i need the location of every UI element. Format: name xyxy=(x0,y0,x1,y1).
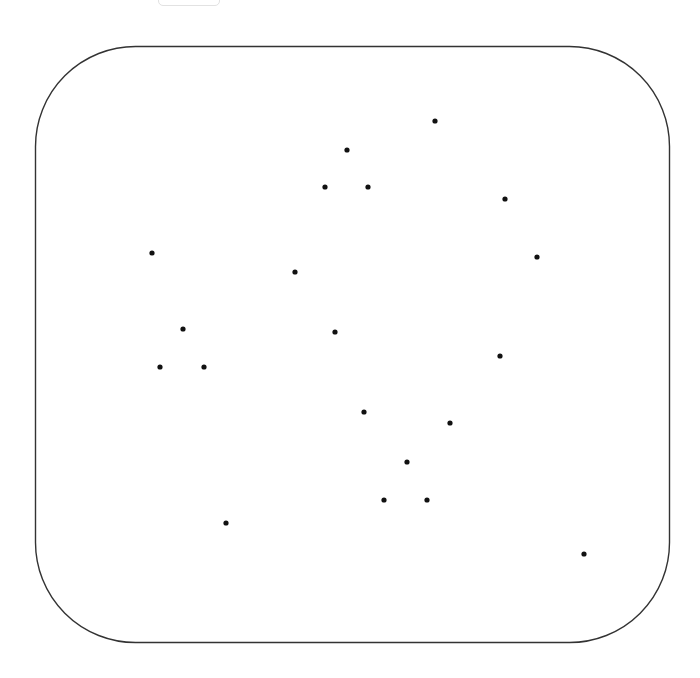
dot-4 xyxy=(365,184,370,189)
dot-17 xyxy=(381,497,386,502)
dot-12 xyxy=(157,364,162,369)
dot-18 xyxy=(424,497,429,502)
dot-13 xyxy=(201,364,206,369)
dot-19 xyxy=(223,520,228,525)
rounded-frame xyxy=(36,47,670,643)
dot-3 xyxy=(322,184,327,189)
dots-group xyxy=(149,118,586,556)
dot-11 xyxy=(497,353,502,358)
dot-2 xyxy=(344,147,349,152)
dot-1 xyxy=(432,118,437,123)
dot-5 xyxy=(502,196,507,201)
dot-9 xyxy=(180,326,185,331)
dot-10 xyxy=(332,329,337,334)
dot-20 xyxy=(581,551,586,556)
dot-canvas[interactable] xyxy=(0,0,700,678)
dot-8 xyxy=(292,269,297,274)
dot-6 xyxy=(149,250,154,255)
dot-16 xyxy=(404,459,409,464)
dot-14 xyxy=(361,409,366,414)
dot-15 xyxy=(447,420,452,425)
dot-7 xyxy=(534,254,539,259)
